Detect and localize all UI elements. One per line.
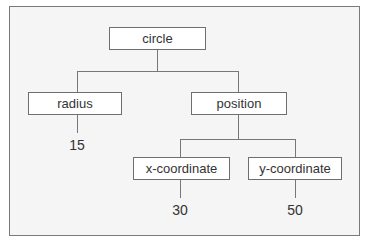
node-circle: circle xyxy=(109,27,206,50)
connector-y-value xyxy=(295,179,296,198)
connector-to-y xyxy=(295,139,296,157)
connector-circle-down xyxy=(157,49,158,71)
node-y-coordinate: y-coordinate xyxy=(248,157,342,180)
connector-radius-value xyxy=(77,114,78,133)
connector-to-radius xyxy=(77,71,78,92)
node-radius: radius xyxy=(28,92,122,115)
node-position: position xyxy=(191,92,287,115)
leaf-radius-value: 15 xyxy=(69,137,85,153)
connector-circle-branch xyxy=(77,71,239,72)
connector-to-x xyxy=(180,139,181,157)
connector-position-down xyxy=(238,114,239,139)
leaf-y-value: 50 xyxy=(287,202,303,218)
node-x-coordinate: x-coordinate xyxy=(133,157,230,180)
connector-x-value xyxy=(180,179,181,198)
leaf-x-value: 30 xyxy=(172,202,188,218)
connector-to-position xyxy=(238,71,239,92)
connector-position-branch xyxy=(180,139,296,140)
